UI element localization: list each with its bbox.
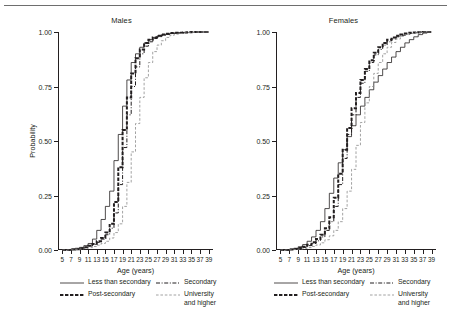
x-tick-label: 19 bbox=[119, 256, 126, 263]
x-tick-label: 31 bbox=[392, 256, 399, 263]
x-tick-label: 9 bbox=[296, 256, 300, 263]
x-tick-label: 23 bbox=[357, 256, 364, 263]
legend-line-sample bbox=[156, 291, 180, 299]
x-tick bbox=[183, 250, 184, 254]
x-tick bbox=[423, 250, 424, 254]
x-tick bbox=[105, 250, 106, 254]
series-line bbox=[280, 32, 431, 250]
x-tick-label: 33 bbox=[401, 256, 408, 263]
y-tick-label: 0.25 bbox=[256, 192, 270, 199]
x-tick-label: 11 bbox=[85, 256, 92, 263]
legend-line-sample bbox=[274, 291, 298, 299]
x-tick bbox=[174, 250, 175, 254]
x-tick-label: 39 bbox=[205, 256, 212, 263]
x-tick-label: 17 bbox=[110, 256, 117, 263]
legend-label: Secondary bbox=[398, 278, 431, 287]
x-tick bbox=[405, 250, 406, 254]
top-divider bbox=[4, 5, 447, 6]
legend-line-sample bbox=[60, 291, 84, 299]
y-tick-label: 1.00 bbox=[256, 29, 270, 36]
x-axis-title-females: Age (years) bbox=[276, 266, 436, 275]
x-tick bbox=[352, 250, 353, 254]
panel-females: Females 0.000.250.500.751.00 57911131517… bbox=[226, 10, 451, 329]
x-tick-label: 9 bbox=[78, 256, 82, 263]
x-tick bbox=[414, 250, 415, 254]
x-tick-label: 35 bbox=[410, 256, 417, 263]
legend-entry[interactable]: Post-secondary bbox=[60, 290, 156, 299]
legend-entry[interactable]: Secondary bbox=[156, 278, 217, 287]
x-tick-label: 15 bbox=[102, 256, 109, 263]
legend-line-sample bbox=[60, 279, 84, 287]
plot-area-females: 0.000.250.500.751.00 5791113151719212325… bbox=[276, 32, 436, 250]
x-tick-label: 31 bbox=[171, 256, 178, 263]
x-tick-label: 35 bbox=[188, 256, 195, 263]
series-line bbox=[280, 32, 431, 250]
x-tick-label: 5 bbox=[61, 256, 65, 263]
panel-males: Males 0.000.250.500.751.00 5791113151719… bbox=[0, 10, 225, 329]
x-tick bbox=[369, 250, 370, 254]
x-tick-label: 15 bbox=[321, 256, 328, 263]
legend-label: Less than secondary bbox=[88, 278, 151, 287]
series-line bbox=[280, 32, 431, 250]
x-tick-label: 23 bbox=[136, 256, 143, 263]
legend-line-sample bbox=[156, 279, 180, 287]
panel-title-females: Females bbox=[226, 16, 451, 25]
legend-entry[interactable]: University and higher bbox=[370, 290, 430, 307]
y-tick-label: 0.00 bbox=[38, 247, 52, 254]
x-tick-label: 7 bbox=[288, 256, 292, 263]
x-tick bbox=[387, 250, 388, 254]
y-tick-label: 0.25 bbox=[38, 192, 52, 199]
x-tick-label: 5 bbox=[279, 256, 283, 263]
x-tick-label: 39 bbox=[428, 256, 435, 263]
y-tick-label: 1.00 bbox=[38, 29, 52, 36]
x-tick bbox=[432, 250, 433, 254]
x-tick bbox=[298, 250, 299, 254]
x-tick-label: 27 bbox=[153, 256, 160, 263]
legend-entry[interactable]: Post-secondary bbox=[274, 290, 370, 299]
legend-entry[interactable]: University and higher bbox=[156, 290, 216, 307]
legend-line-sample bbox=[274, 279, 298, 287]
x-tick-label: 17 bbox=[330, 256, 337, 263]
x-tick-label: 21 bbox=[348, 256, 355, 263]
legend-line-sample bbox=[370, 279, 394, 287]
x-tick bbox=[80, 250, 81, 254]
y-tick-label: 0.75 bbox=[256, 83, 270, 90]
legend-females: Less than secondarySecondaryPost-seconda… bbox=[274, 278, 449, 310]
x-tick-label: 37 bbox=[197, 256, 204, 263]
x-tick bbox=[191, 250, 192, 254]
figure: Males 0.000.250.500.751.00 5791113151719… bbox=[0, 10, 451, 329]
x-tick bbox=[123, 250, 124, 254]
x-tick bbox=[157, 250, 158, 254]
legend-entry[interactable]: Less than secondary bbox=[60, 278, 156, 287]
x-tick-label: 29 bbox=[384, 256, 391, 263]
legend-row: Post-secondaryUniversity and higher bbox=[274, 290, 449, 307]
y-axis-title-males: Probability bbox=[28, 124, 37, 158]
x-tick bbox=[307, 250, 308, 254]
y-tick-label: 0.50 bbox=[38, 138, 52, 145]
x-tick-label: 19 bbox=[339, 256, 346, 263]
legend-label: Secondary bbox=[184, 278, 217, 287]
legend-label: Post-secondary bbox=[302, 290, 349, 299]
legend-label: Post-secondary bbox=[88, 290, 135, 299]
legend-label: University and higher bbox=[398, 290, 430, 307]
x-axis-title-males: Age (years) bbox=[58, 266, 213, 275]
legend-row: Less than secondarySecondary bbox=[60, 278, 225, 287]
legend-row: Less than secondarySecondary bbox=[274, 278, 449, 287]
x-tick bbox=[71, 250, 72, 254]
x-tick-label: 13 bbox=[93, 256, 100, 263]
legend-entry[interactable]: Less than secondary bbox=[274, 278, 370, 287]
legend-line-sample bbox=[370, 291, 394, 299]
y-tick-label: 0.50 bbox=[256, 138, 270, 145]
curves-males bbox=[58, 32, 213, 250]
legend-row: Post-secondaryUniversity and higher bbox=[60, 290, 225, 307]
panel-title-males: Males bbox=[0, 16, 225, 25]
curves-females bbox=[276, 32, 436, 250]
y-tick-label: 0.00 bbox=[256, 247, 270, 254]
series-line bbox=[280, 32, 431, 250]
x-tick bbox=[209, 250, 210, 254]
legend-entry[interactable]: Secondary bbox=[370, 278, 431, 287]
x-tick-label: 21 bbox=[128, 256, 135, 263]
legend-males: Less than secondarySecondaryPost-seconda… bbox=[60, 278, 225, 310]
x-tick-label: 37 bbox=[419, 256, 426, 263]
x-tick bbox=[325, 250, 326, 254]
